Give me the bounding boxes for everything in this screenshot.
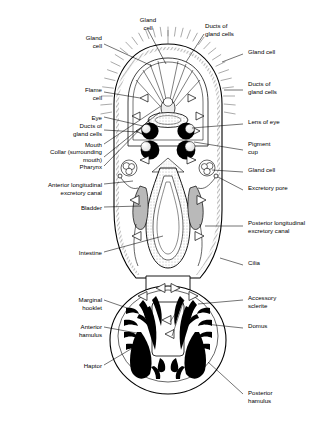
eye-anterior-right — [177, 122, 194, 139]
haptor — [110, 284, 226, 407]
label-ducts-of-gland-cells-right: Ducts of gland cells — [248, 80, 334, 95]
label-bladder: Bladder — [36, 204, 102, 212]
label-ducts-of-gland-cells-left: Ducts of gland cells — [36, 122, 102, 137]
label-accessory-sclerite: Accessory sclerite — [248, 294, 334, 309]
label-lens-of-eye: Lens of eye — [248, 118, 334, 126]
label-eye: Eye — [46, 114, 102, 122]
gland-rosette-left — [121, 160, 137, 176]
eye-posterior-right — [177, 141, 196, 160]
label-domus: Domus — [248, 322, 334, 330]
label-flame-cell: Flame cell — [46, 86, 102, 101]
label-intestine: Intestine — [36, 249, 102, 257]
gland-rosette-right — [199, 160, 215, 176]
label-excretory-pore: Excretory pore — [248, 184, 334, 192]
label-cilia: Cilia — [248, 259, 334, 267]
label-posterior-hamulus: Posterior hamulus — [248, 389, 334, 404]
label-anterior-hamulus: Anterior hamulus — [36, 323, 102, 338]
label-gland-cell-right: Gland cell — [248, 48, 334, 56]
label-pharynx: Pharynx — [36, 163, 102, 171]
label-gland-cell-mid-right: Gland cell — [248, 166, 334, 174]
label-ducts-of-gland-cells-top: Ducts of gland cells — [205, 22, 267, 37]
label-haptor: Haptor — [36, 362, 102, 370]
label-anterior-longitudinal-excretory-canal: Anterior longitudinal excretory canal — [10, 181, 102, 196]
diagram-canvas: Gland cell Ducts of gland cells Gland ce… — [0, 0, 336, 428]
eye-posterior-left — [141, 141, 160, 160]
label-pigment-cup: Pigment cup — [248, 140, 334, 155]
label-gland-cell-upper-left: Gland cell — [56, 34, 102, 49]
label-collar-surrounding-mouth: Collar (surrounding mouth) — [14, 148, 102, 163]
label-posterior-longitudinal-excretory-canal: Posterior longitudinal excretory canal — [248, 219, 336, 234]
label-marginal-hooklet: Marginal hooklet — [36, 296, 102, 311]
label-gland-cell-top: Gland cell — [126, 16, 170, 31]
